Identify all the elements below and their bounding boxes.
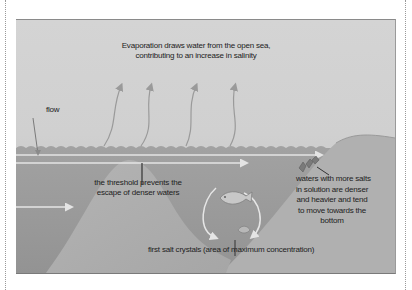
salts-label-line5: bottom [296,216,368,227]
evaporation-label-line1: Evaporation draws water from the open se… [96,41,296,51]
evaporation-label-line2: contributing to an increase in salinity [96,51,296,61]
denser-waters-label: waters with more salts in solution are d… [296,174,368,227]
threshold-label-line2: escape of denser waters [88,188,188,198]
page-margin-left [5,0,6,290]
salts-label-line1: waters with more salts [296,174,368,185]
threshold-label-line1: the threshold prevents the [88,178,188,188]
page-margin-right [405,0,406,290]
diagram-panel: Evaporation draws water from the open se… [16,19,396,274]
evaporation-label: Evaporation draws water from the open se… [96,41,296,61]
salt-crystals-label: first salt crystals (area of maximum con… [148,245,308,255]
flow-label: flow [46,105,59,115]
threshold-label: the threshold prevents the escape of den… [88,178,188,198]
salts-label-line4: to move towards the [296,206,368,217]
salts-label-line2: in solution are denser [296,185,368,196]
salts-label-line3: and heavier and tend [296,195,368,206]
